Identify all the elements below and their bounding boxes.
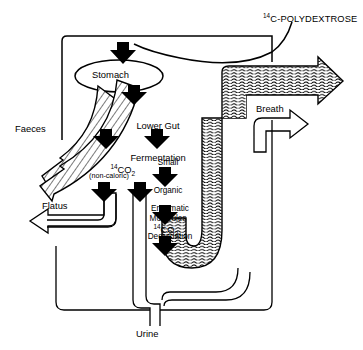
enzymatic-line-1: Enzymatic bbox=[136, 204, 204, 213]
compound-title: 14C-POLYDEXTROSE bbox=[252, 4, 357, 35]
co2-tissue-isotope: 14 bbox=[153, 222, 160, 229]
breath-outline-arrow bbox=[254, 110, 308, 152]
urine-label: Urine bbox=[136, 329, 158, 340]
figure-canvas: 14C-POLYDEXTROSE Stomach Lower Gut Ferme… bbox=[0, 0, 363, 350]
flatus-label: Flatus bbox=[42, 201, 68, 212]
compound-name: C-POLYDEXTROSE bbox=[270, 14, 357, 24]
co2-gut-label: 14CO2 bbox=[100, 154, 135, 186]
co2-tissue-subscript: 2 bbox=[175, 229, 179, 236]
small-organic-line-1: Small bbox=[138, 158, 198, 167]
co2-tissue-body: CO bbox=[161, 224, 175, 235]
faeces-label: Faeces bbox=[15, 124, 46, 135]
co2-gut-isotope: 14 bbox=[110, 162, 117, 169]
stomach-label: Stomach bbox=[92, 70, 129, 81]
co2-gut-subscript: 2 bbox=[132, 169, 136, 176]
lower-gut-line-1: Lower Gut bbox=[112, 121, 204, 132]
breath-label: Breath bbox=[256, 104, 284, 115]
co2-tissue-label: 14CO2 bbox=[143, 214, 178, 246]
non-caloric-label: (non-caloric) bbox=[89, 172, 129, 180]
